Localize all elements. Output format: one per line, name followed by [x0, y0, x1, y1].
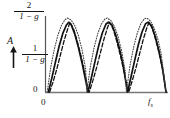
y-tick-label-zero: 0	[33, 84, 38, 94]
y-tick-top-denominator: 1 − g	[19, 12, 39, 21]
curve-group	[47, 18, 166, 92]
y-top-den-var: g	[34, 11, 39, 21]
amplitude-axis-label: A	[7, 35, 13, 46]
axes	[45, 16, 168, 93]
up-arrow-icon	[9, 46, 18, 68]
y-tick-label-2-over-1-minus-g: 2 1 − g	[14, 1, 44, 21]
y-tick-mid-numerator: 1	[33, 44, 38, 53]
y-tick-mid-denominator: 1 − g	[25, 55, 45, 64]
y-top-den-pre: 1 −	[19, 11, 34, 21]
curve-dashed	[50, 22, 166, 92]
curve-solid	[48, 22, 166, 92]
y-mid-den-pre: 1 −	[25, 54, 40, 64]
x-tick-label-sampling-frequency: fs	[148, 96, 153, 108]
x-tick-label-zero: 0	[41, 97, 46, 107]
y-mid-den-var: g	[40, 54, 45, 64]
x-max-subscript: s	[151, 102, 153, 108]
y-tick-top-numerator: 2	[27, 1, 32, 10]
y-tick-label-1-over-1-minus-g: 1 1 − g	[22, 44, 48, 64]
